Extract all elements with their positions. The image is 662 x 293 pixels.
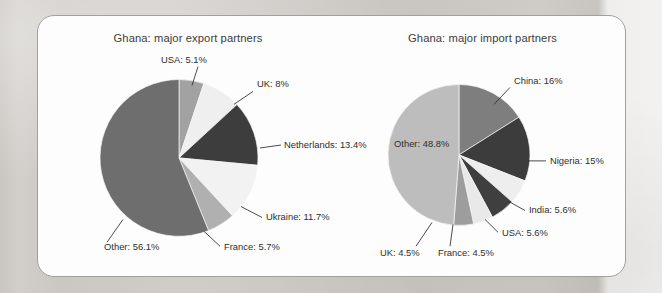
pie-slice-label: USA: 5.6% xyxy=(502,228,548,238)
pie-slice-label: UK: 8% xyxy=(257,79,289,89)
export-pie-chart: USA: 5.1%UK: 8%Netherlands: 13.4%Ukraine… xyxy=(38,16,338,276)
leader-line xyxy=(107,219,123,242)
export-pie-slices xyxy=(100,80,258,237)
pie-slice-label: Ukraine: 11.7% xyxy=(266,212,330,222)
import-chart-panel: Ghana: major import partners China: 16%N… xyxy=(338,16,627,276)
pie-slice-label: Other: 48.8% xyxy=(394,139,449,149)
leader-line xyxy=(485,219,498,232)
pie-slice-label: France: 5.7% xyxy=(224,242,280,252)
pie-slice-label: China: 16% xyxy=(514,77,563,87)
leader-line xyxy=(450,224,453,246)
figure-card: Ghana: major export partners USA: 5.1%UK… xyxy=(37,15,626,277)
pie-slice-label: India: 5.6% xyxy=(529,206,576,216)
pie-slice-label: Other: 56.1% xyxy=(104,242,159,252)
leader-line xyxy=(416,222,432,246)
pie-slice-label: UK: 4.5% xyxy=(380,248,420,258)
import-pie-chart: China: 16%Nigeria: 15%India: 5.6%USA: 5.… xyxy=(338,16,627,276)
export-chart-panel: Ghana: major export partners USA: 5.1%UK… xyxy=(38,16,338,276)
leader-line xyxy=(509,202,525,211)
leader-line xyxy=(241,207,262,218)
import-pie-slices xyxy=(388,84,530,225)
leader-line xyxy=(260,145,281,148)
leader-line xyxy=(204,231,220,246)
pie-slice-label: Nigeria: 15% xyxy=(550,156,604,166)
pie-slice-label: USA: 5.1% xyxy=(161,55,207,65)
pie-slice[interactable] xyxy=(388,84,459,225)
leader-line xyxy=(234,91,253,104)
pie-slice-label: France: 4.5% xyxy=(438,248,494,258)
